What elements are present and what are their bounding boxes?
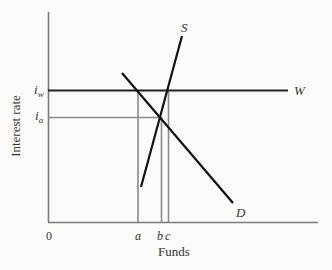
- i-w-label: iw: [34, 82, 44, 99]
- origin-label: 0: [46, 229, 52, 243]
- supply-label: S: [181, 20, 188, 35]
- b-label: b: [157, 229, 163, 243]
- a-label: a: [135, 229, 141, 243]
- y-axis-title: Interest rate: [8, 95, 23, 157]
- diagram-canvas: S D W iw ia 0 a b c Funds Interest rate: [0, 0, 332, 270]
- i-a-label: ia: [35, 108, 44, 125]
- demand-label: D: [235, 205, 246, 220]
- x-axis-title: Funds: [158, 244, 190, 259]
- world-rate-label: W: [294, 83, 306, 98]
- c-label: c: [165, 229, 171, 243]
